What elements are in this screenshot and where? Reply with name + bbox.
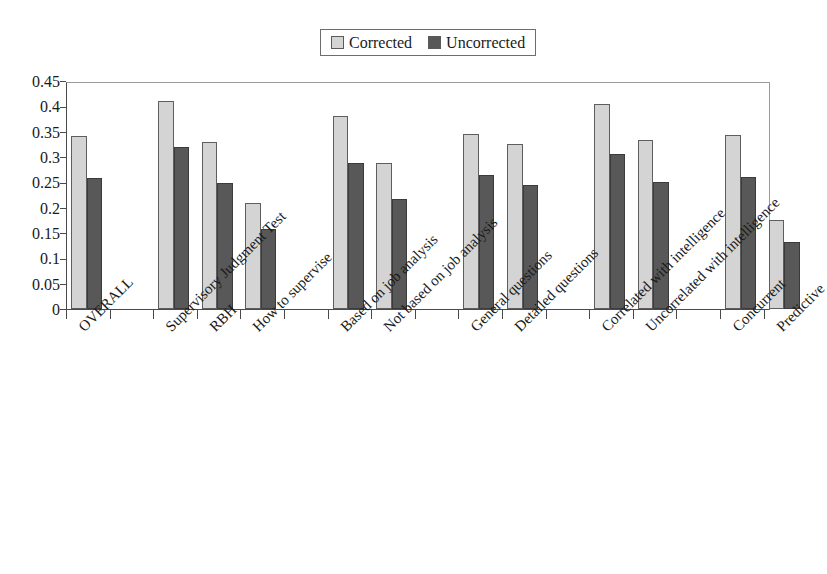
bar-corrected-correlated-with-intelligence: [594, 104, 610, 309]
x-axis-tick-mark: [720, 310, 721, 319]
legend-swatch-uncorrected: [428, 36, 441, 49]
x-axis-tick-mark: [153, 310, 154, 319]
y-axis-tick-label: 0.45: [32, 74, 60, 90]
x-axis-tick-mark: [633, 310, 634, 319]
bar-uncorrected-detailed-questions: [523, 185, 539, 309]
legend-label-uncorrected: Uncorrected: [446, 35, 525, 51]
legend-label-corrected: Corrected: [349, 35, 412, 51]
y-axis-tick-label: 0.2: [40, 201, 60, 217]
legend-swatch-corrected: [331, 36, 344, 49]
x-axis-tick-mark: [66, 310, 67, 319]
chart-legend: Corrected Uncorrected: [320, 29, 536, 56]
bar-uncorrected-based-on-job-analysis: [348, 163, 364, 309]
bar-uncorrected-overall: [87, 178, 103, 309]
y-axis-tick-label: 0.35: [32, 125, 60, 141]
bar-corrected-based-on-job-analysis: [333, 116, 349, 309]
x-axis-tick-mark: [284, 310, 285, 319]
x-axis-tick-mark: [502, 310, 503, 319]
x-axis-tick-mark: [589, 310, 590, 319]
y-axis-tick-label: 0.3: [40, 150, 60, 166]
bar-corrected-concurrent: [725, 135, 741, 309]
bar-corrected-supervisory-judgment-test: [158, 101, 174, 309]
y-axis-tick-label: 0.25: [32, 175, 60, 191]
legend-entry-uncorrected: Uncorrected: [428, 35, 525, 51]
x-axis-tick-mark: [197, 310, 198, 319]
bar-corrected-general-questions: [463, 134, 479, 309]
bar-corrected-overall: [71, 136, 87, 309]
x-axis-tick-mark: [328, 310, 329, 319]
x-axis-tick-mark: [415, 310, 416, 319]
legend-entry-corrected: Corrected: [331, 35, 412, 51]
y-axis-tick-label: 0.1: [40, 251, 60, 267]
bar-uncorrected-rbh: [217, 183, 233, 309]
bar-uncorrected-uncorrelated-with-intelligence: [653, 182, 669, 309]
y-axis-tick-label: 0.15: [32, 226, 60, 242]
y-axis-tick-label: 0.4: [40, 99, 60, 115]
x-axis-tick-mark: [240, 310, 241, 319]
x-axis-tick-mark: [458, 310, 459, 319]
y-axis-tick-label: 0.05: [32, 277, 60, 293]
bar-uncorrected-correlated-with-intelligence: [610, 154, 626, 309]
bar-uncorrected-supervisory-judgment-test: [174, 147, 190, 309]
y-axis-tick-label: 0: [52, 302, 60, 318]
